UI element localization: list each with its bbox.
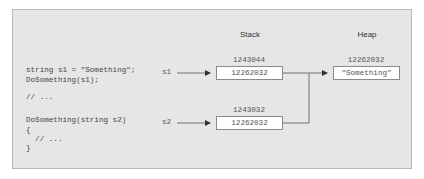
connector-arrows — [0, 0, 424, 179]
